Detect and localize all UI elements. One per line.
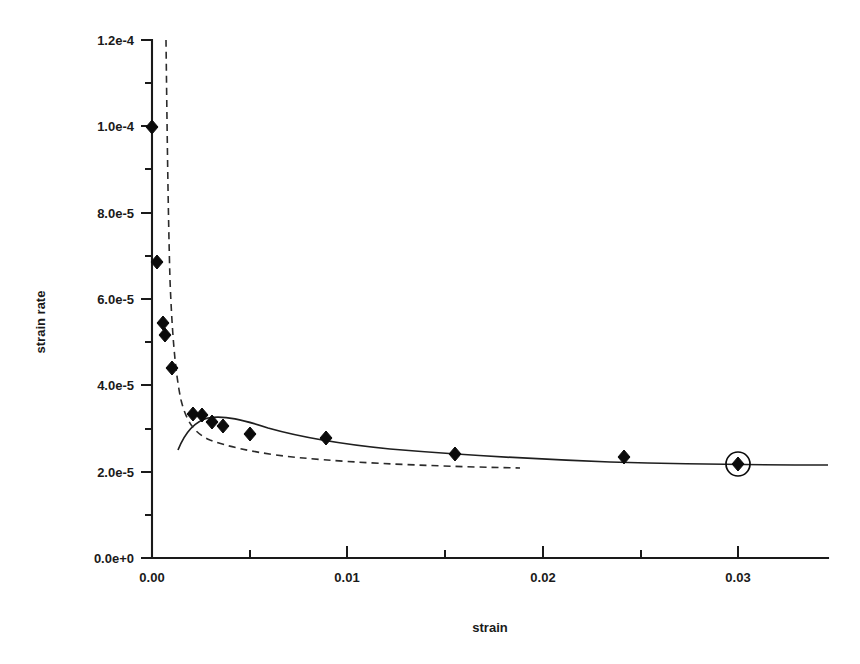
y-tick-label-5: 1.0e-4	[97, 119, 135, 134]
strain-rate-chart: 0.0e+0 2.0e-5 4.0e-5 6.0e-5 8.0e-5 1.0e-…	[0, 0, 860, 664]
x-tick-label-2: 0.02	[530, 570, 555, 585]
y-tick-label-4: 8.0e-5	[97, 206, 134, 221]
x-tick-label-0: 0.00	[139, 570, 164, 585]
x-tick-label-1: 0.01	[334, 570, 359, 585]
y-tick-label-2: 4.0e-5	[97, 378, 134, 393]
y-tick-label-1: 2.0e-5	[97, 465, 134, 480]
x-axis-title: strain	[472, 620, 507, 635]
y-tick-label-0: 0.0e+0	[94, 551, 134, 566]
y-tick-label-6: 1.2e-4	[97, 33, 135, 48]
x-tick-label-3: 0.03	[725, 570, 750, 585]
y-axis-title: strain rate	[33, 291, 48, 354]
y-tick-label-3: 6.0e-5	[97, 292, 134, 307]
